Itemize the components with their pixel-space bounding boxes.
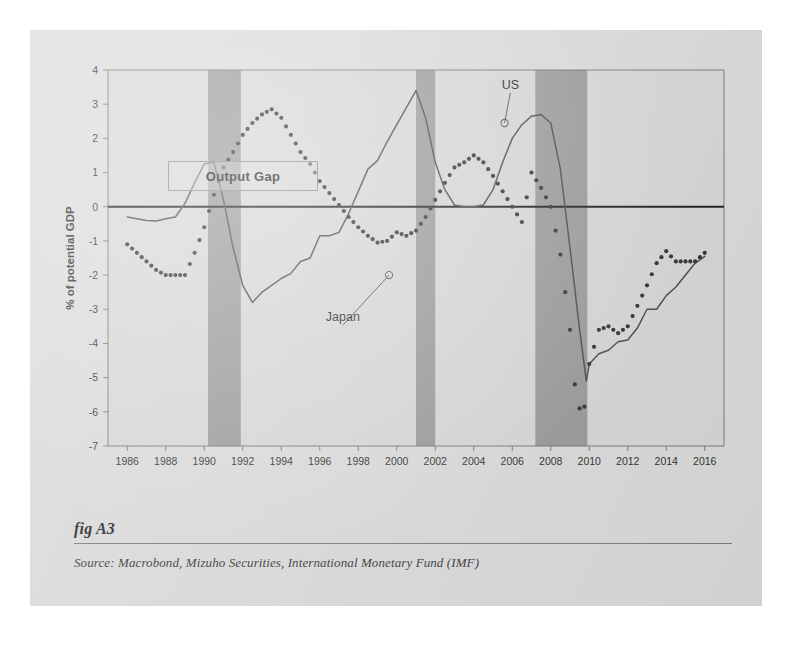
japan-data-dot <box>529 170 533 174</box>
figure-card: 43210-1-2-3-4-5-6-7 19861988199019921994… <box>30 30 762 606</box>
japan-data-dot <box>250 121 254 125</box>
japan-data-dot <box>265 110 269 114</box>
japan-data-dot <box>635 304 639 308</box>
japan-data-dot <box>409 231 413 235</box>
japan-data-dot <box>164 273 168 277</box>
japan-data-dot <box>419 222 423 226</box>
japan-data-dot <box>207 209 211 213</box>
japan-data-dot <box>553 229 557 233</box>
chart-title: Output Gap <box>206 169 281 184</box>
japan-data-dot <box>428 206 432 210</box>
y-axis-ticks: 43210-1-2-3-4-5-6-7 <box>89 64 108 452</box>
japan-data-dot <box>318 179 322 183</box>
x-tick-label: 1992 <box>231 455 255 467</box>
japan-data-dot <box>515 212 519 216</box>
recession-band-2001 <box>416 70 435 446</box>
chart-title-box: Output Gap <box>168 161 318 191</box>
japan-data-dot <box>255 117 259 121</box>
japan-data-dot <box>231 150 235 154</box>
japan-data-dot <box>399 232 403 236</box>
japan-data-dot <box>424 215 428 219</box>
japan-data-dot <box>135 251 139 255</box>
japan-data-dot <box>630 314 634 318</box>
japan-data-dot <box>568 328 572 332</box>
japan-data-dot <box>380 240 384 244</box>
y-tick-label: -5 <box>89 371 98 383</box>
annotation-label-japan: Japan <box>326 310 360 324</box>
y-tick-label: 3 <box>92 98 98 110</box>
x-tick-label: 2010 <box>578 455 602 467</box>
japan-data-dot <box>188 262 192 266</box>
japan-data-dot <box>173 273 177 277</box>
japan-data-dot <box>688 259 692 263</box>
japan-data-dot <box>496 182 500 186</box>
japan-data-dot <box>168 273 172 277</box>
japan-data-dot <box>284 124 288 128</box>
output-gap-chart: 43210-1-2-3-4-5-6-7 19861988199019921994… <box>60 62 732 502</box>
japan-data-dot <box>606 324 610 328</box>
japan-data-dot <box>270 107 274 111</box>
japan-data-dot <box>443 181 447 185</box>
japan-data-dot <box>327 191 331 195</box>
x-axis-ticks: 1986198819901992199419961998200020022004… <box>116 446 717 467</box>
japan-data-dot <box>303 156 307 160</box>
japan-data-dot <box>390 235 394 239</box>
japan-data-dot <box>597 328 601 332</box>
japan-data-dot <box>611 328 615 332</box>
figure-page: 43210-1-2-3-4-5-6-7 19861988199019921994… <box>0 0 790 646</box>
japan-data-dot <box>578 406 582 410</box>
y-tick-label: -6 <box>89 406 98 418</box>
japan-data-dot <box>337 203 341 207</box>
japan-data-dot <box>525 195 529 199</box>
japan-data-dot <box>144 259 148 263</box>
x-tick-label: 2002 <box>424 455 448 467</box>
japan-data-dot <box>505 197 509 201</box>
japan-data-dot <box>433 198 437 202</box>
japan-data-dot <box>645 283 649 287</box>
y-tick-label: -7 <box>89 440 98 452</box>
japan-data-dot <box>544 195 548 199</box>
japan-data-dot <box>298 150 302 154</box>
japan-data-dot <box>347 215 351 219</box>
japan-data-dot <box>679 259 683 263</box>
japan-data-dot <box>140 255 144 259</box>
japan-data-dot <box>616 331 620 335</box>
figure-caption-block: fig A3 Source: Macrobond, Mizuho Securit… <box>74 520 732 571</box>
caption-divider <box>74 543 732 544</box>
japan-data-dot <box>202 225 206 229</box>
japan-data-dot <box>342 209 346 213</box>
japan-data-dot <box>486 167 490 171</box>
japan-data-dot <box>693 259 697 263</box>
japan-data-dot <box>655 261 659 265</box>
x-tick-label: 2012 <box>616 455 640 467</box>
japan-data-dot <box>510 205 514 209</box>
japan-data-dot <box>159 270 163 274</box>
x-tick-label: 2014 <box>655 455 679 467</box>
japan-data-dot <box>457 163 461 167</box>
japan-data-dot <box>558 252 562 256</box>
japan-data-dot <box>356 225 360 229</box>
japan-data-dot <box>698 255 702 259</box>
japan-data-dot <box>149 264 153 268</box>
y-tick-label: -2 <box>89 269 98 281</box>
y-tick-label: -4 <box>89 337 98 349</box>
japan-data-dot <box>520 220 524 224</box>
japan-data-dot <box>659 255 663 259</box>
y-axis-title-text: % of potential GDP <box>64 206 76 310</box>
japan-data-dot <box>573 382 577 386</box>
japan-data-dot <box>154 268 158 272</box>
japan-data-dot <box>274 111 278 115</box>
japan-data-dot <box>361 229 365 233</box>
japan-data-dot <box>448 173 452 177</box>
japan-data-dot <box>621 328 625 332</box>
japan-data-dot <box>481 160 485 164</box>
japan-data-dot <box>385 239 389 243</box>
japan-data-dot <box>322 185 326 189</box>
japan-data-dot <box>371 237 375 241</box>
y-tick-label: 0 <box>92 201 98 213</box>
japan-data-dot <box>452 165 456 169</box>
japan-data-dot <box>130 247 134 251</box>
japan-data-dot <box>197 238 201 242</box>
chart-canvas: 43210-1-2-3-4-5-6-7 19861988199019921994… <box>60 62 732 502</box>
japan-data-dot <box>212 193 216 197</box>
